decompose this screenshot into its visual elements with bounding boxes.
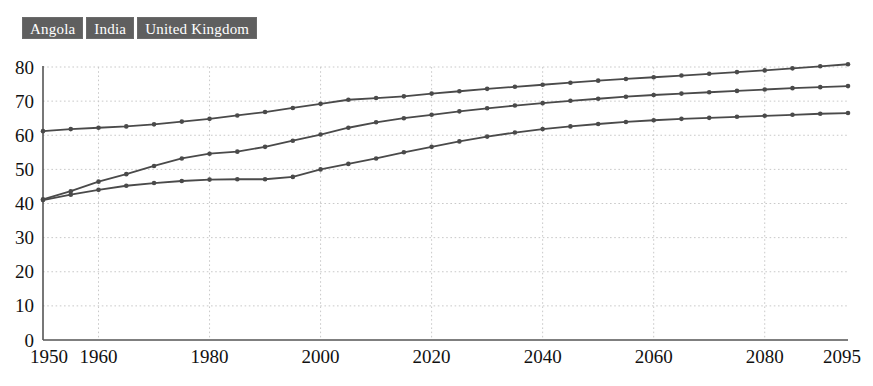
data-point-marker — [624, 77, 629, 82]
data-point-marker — [651, 93, 656, 98]
data-point-marker — [790, 66, 795, 71]
x-axis-tick-label: 1960 — [80, 346, 118, 367]
plot-area: 0102030405060708019501960198020002020204… — [0, 0, 873, 386]
data-point-marker — [346, 162, 351, 167]
data-point-marker — [346, 125, 351, 130]
data-point-marker — [540, 127, 545, 132]
x-axis-tick-label: 1950 — [30, 346, 68, 367]
data-point-marker — [291, 138, 296, 143]
data-point-marker — [41, 129, 46, 134]
data-point-marker — [485, 87, 490, 92]
data-point-marker — [152, 181, 157, 186]
data-point-marker — [651, 118, 656, 123]
data-point-marker — [235, 177, 240, 182]
data-point-marker — [513, 130, 518, 135]
data-point-marker — [624, 120, 629, 125]
data-point-marker — [679, 117, 684, 122]
data-point-marker — [846, 84, 851, 89]
data-point-marker — [374, 156, 379, 161]
data-point-marker — [179, 119, 184, 124]
data-point-marker — [68, 127, 73, 132]
data-point-marker — [818, 111, 823, 116]
data-point-marker — [513, 103, 518, 108]
data-point-marker — [291, 175, 296, 180]
series-united-kingdom — [41, 62, 851, 133]
data-point-marker — [485, 134, 490, 139]
data-point-marker — [318, 167, 323, 172]
y-axis-tick-label: 50 — [15, 159, 34, 180]
x-axis-tick-label: 2095 — [823, 346, 861, 367]
data-point-marker — [540, 101, 545, 106]
x-axis-tick-label: 2080 — [746, 346, 784, 367]
x-axis-tick-label: 2000 — [302, 346, 340, 367]
data-point-marker — [96, 188, 101, 193]
data-point-marker — [651, 75, 656, 80]
data-point-marker — [596, 96, 601, 101]
data-point-marker — [179, 179, 184, 184]
data-point-marker — [596, 78, 601, 83]
data-point-marker — [818, 85, 823, 90]
data-point-marker — [429, 91, 434, 96]
data-point-marker — [374, 120, 379, 125]
data-point-marker — [790, 86, 795, 91]
data-point-marker — [124, 183, 129, 188]
data-point-marker — [457, 109, 462, 114]
data-point-marker — [735, 70, 740, 75]
data-point-marker — [624, 94, 629, 99]
data-point-marker — [263, 145, 268, 150]
data-point-marker — [68, 189, 73, 194]
data-point-marker — [402, 94, 407, 99]
y-axis-tick-label: 80 — [15, 57, 34, 78]
data-point-marker — [679, 91, 684, 96]
data-point-marker — [124, 172, 129, 177]
y-axis-tick-label: 40 — [15, 193, 34, 214]
data-point-marker — [207, 117, 212, 122]
data-point-marker — [457, 89, 462, 94]
data-point-marker — [402, 150, 407, 155]
data-point-marker — [735, 89, 740, 94]
series-line — [43, 64, 848, 131]
data-point-marker — [235, 113, 240, 118]
data-point-marker — [429, 112, 434, 117]
x-axis-tick-label: 1980 — [191, 346, 229, 367]
plot-svg: 0102030405060708019501960198020002020204… — [0, 0, 873, 386]
data-point-marker — [679, 73, 684, 78]
data-point-marker — [152, 122, 157, 127]
data-point-marker — [346, 97, 351, 102]
y-axis-tick-label: 20 — [15, 261, 34, 282]
data-point-marker — [263, 110, 268, 115]
data-point-marker — [318, 132, 323, 137]
data-point-marker — [96, 125, 101, 130]
y-axis-tick-label: 60 — [15, 125, 34, 146]
data-point-marker — [152, 164, 157, 169]
x-axis-tick-label: 2060 — [635, 346, 673, 367]
data-point-marker — [318, 102, 323, 107]
data-point-marker — [707, 90, 712, 95]
data-point-marker — [207, 177, 212, 182]
data-point-marker — [568, 80, 573, 85]
data-point-marker — [707, 72, 712, 77]
data-point-marker — [762, 87, 767, 92]
y-axis-tick-label: 10 — [15, 295, 34, 316]
data-point-marker — [762, 113, 767, 118]
data-point-marker — [568, 98, 573, 103]
series-line — [43, 113, 848, 200]
data-point-marker — [41, 197, 46, 202]
data-point-marker — [790, 112, 795, 117]
y-axis-tick-label: 70 — [15, 91, 34, 112]
data-point-marker — [513, 84, 518, 89]
data-point-marker — [291, 106, 296, 111]
data-point-marker — [207, 151, 212, 156]
data-point-marker — [235, 149, 240, 154]
data-point-marker — [457, 139, 462, 144]
data-point-marker — [846, 111, 851, 116]
x-axis-tick-label: 2040 — [524, 346, 562, 367]
data-point-marker — [540, 82, 545, 87]
data-point-marker — [179, 156, 184, 161]
data-point-marker — [374, 96, 379, 101]
data-point-marker — [762, 68, 767, 73]
data-point-marker — [263, 177, 268, 182]
data-point-marker — [124, 124, 129, 129]
data-point-marker — [429, 145, 434, 150]
data-point-marker — [596, 122, 601, 127]
